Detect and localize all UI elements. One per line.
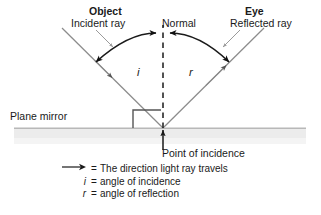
incident-ray-line — [62, 28, 163, 128]
eye-label: Eye — [245, 6, 264, 17]
normal-label: Normal — [162, 18, 196, 29]
legend-text-incidence: angle of incidence — [100, 176, 228, 187]
legend-row-direction: = The direction light ray travels — [56, 163, 228, 176]
diagram-legend: = The direction light ray travels i = an… — [56, 163, 228, 201]
legend-key-i: i — [56, 176, 91, 187]
legend-text-direction: The direction light ray travels — [100, 163, 228, 174]
angle-of-reflection-symbol: r — [189, 66, 193, 78]
object-leader-line — [96, 30, 113, 47]
object-label: Object — [89, 6, 122, 17]
plane-mirror-label: Plane mirror — [10, 111, 67, 122]
reflection-diagram: Object Incident ray Eye Reflected ray No… — [0, 0, 321, 215]
legend-equals-direction: = — [91, 163, 100, 174]
point-of-incidence-label: Point of incidence — [162, 148, 245, 159]
direction-arrow-icon — [61, 162, 87, 171]
legend-equals-incidence: = — [91, 176, 100, 187]
eye-leader-line — [223, 30, 240, 47]
legend-key-r: r — [56, 188, 91, 199]
reflected-ray-label: Reflected ray — [230, 18, 292, 29]
angle-r-arc — [170, 33, 229, 62]
angle-of-incidence-symbol: i — [137, 66, 140, 78]
reflected-ray-direction-arrow — [206, 66, 226, 86]
incident-ray-label: Incident ray — [71, 18, 125, 29]
angle-i-arc — [96, 33, 156, 62]
legend-equals-reflection: = — [91, 188, 100, 199]
legend-text-reflection: angle of reflection — [100, 188, 228, 199]
mirror-band-fade — [14, 138, 306, 144]
legend-row-reflection: r = angle of reflection — [56, 188, 228, 201]
legend-row-incidence: i = angle of incidence — [56, 176, 228, 189]
incident-ray-direction-arrow — [95, 61, 112, 78]
